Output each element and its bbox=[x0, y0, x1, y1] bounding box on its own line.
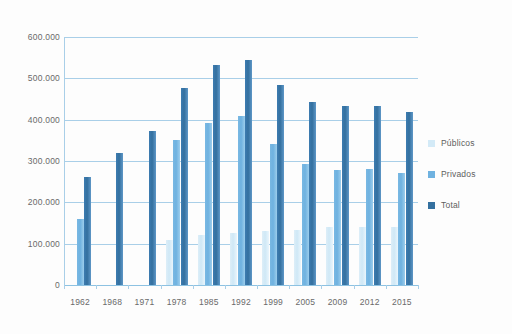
bar-total-1962 bbox=[84, 177, 91, 285]
bar-publicos-1985 bbox=[198, 235, 205, 285]
legend-label: Total bbox=[441, 200, 460, 210]
bar-total-1978 bbox=[181, 88, 188, 285]
bar-publicos-2009 bbox=[326, 227, 333, 285]
x-tick-mark-2009 bbox=[321, 285, 322, 289]
chart-legend: PúblicosPrivadosTotal bbox=[428, 138, 508, 231]
x-tick-mark-1978 bbox=[161, 285, 162, 289]
bar-total-2009 bbox=[342, 106, 349, 285]
y-tick-label-400000: 400.000 bbox=[28, 115, 60, 125]
bar-total-1968 bbox=[116, 153, 123, 285]
x-tick-mark-1985 bbox=[193, 285, 194, 289]
x-tick-label-2015: 2015 bbox=[392, 297, 412, 307]
legend-label: Privados bbox=[441, 169, 476, 179]
bar-total-1985 bbox=[213, 65, 220, 285]
y-tick-label-0: 0 bbox=[55, 280, 60, 290]
bar-total-1992 bbox=[245, 60, 252, 285]
bar-privados-1978 bbox=[173, 140, 180, 285]
bar-privados-2005 bbox=[302, 164, 309, 285]
y-tick-label-100000: 100.000 bbox=[28, 239, 60, 249]
gridline-0 bbox=[64, 285, 418, 286]
x-tick-label-1999: 1999 bbox=[263, 297, 283, 307]
legend-swatch-icon-privados bbox=[428, 171, 435, 178]
x-tick-mark-2015 bbox=[386, 285, 387, 289]
y-tick-label-200000: 200.000 bbox=[28, 197, 60, 207]
y-tick-label-600000: 600.000 bbox=[28, 32, 60, 42]
x-tick-mark-1971 bbox=[128, 285, 129, 289]
bar-publicos-2005 bbox=[294, 230, 301, 285]
y-tick-label-300000: 300.000 bbox=[28, 156, 60, 166]
x-tick-mark-2005 bbox=[289, 285, 290, 289]
x-tick-label-1962: 1962 bbox=[70, 297, 90, 307]
y-tick-label-500000: 500.000 bbox=[28, 73, 60, 83]
bar-privados-1992 bbox=[238, 116, 245, 285]
legend-item-públicos[interactable]: Públicos bbox=[428, 138, 508, 148]
x-tick-label-1968: 1968 bbox=[102, 297, 122, 307]
plot-area bbox=[64, 37, 418, 285]
y-axis-line bbox=[64, 37, 65, 285]
bar-privados-2009 bbox=[334, 170, 341, 285]
bar-publicos-1978 bbox=[166, 240, 173, 285]
bar-total-2015 bbox=[406, 112, 413, 285]
bar-total-1971 bbox=[149, 131, 156, 285]
legend-swatch-icon-total bbox=[428, 202, 435, 209]
x-tick-label-1985: 1985 bbox=[199, 297, 219, 307]
bar-total-1999 bbox=[277, 85, 284, 285]
x-tick-label-1992: 1992 bbox=[231, 297, 251, 307]
legend-item-privados[interactable]: Privados bbox=[428, 169, 508, 179]
bar-publicos-1999 bbox=[262, 231, 269, 285]
gridline-500000 bbox=[64, 78, 418, 79]
bar-total-2012 bbox=[374, 106, 381, 285]
x-tick-mark-end bbox=[418, 285, 419, 289]
bar-privados-2015 bbox=[398, 173, 405, 285]
x-tick-label-1978: 1978 bbox=[167, 297, 187, 307]
bar-publicos-2012 bbox=[359, 227, 366, 285]
bar-privados-2012 bbox=[366, 169, 373, 285]
x-tick-mark-2012 bbox=[354, 285, 355, 289]
bar-publicos-2015 bbox=[391, 227, 398, 285]
legend-item-total[interactable]: Total bbox=[428, 200, 508, 210]
bar-total-2005 bbox=[309, 102, 316, 285]
x-tick-mark-1999 bbox=[257, 285, 258, 289]
x-tick-label-2012: 2012 bbox=[360, 297, 380, 307]
legend-label: Públicos bbox=[441, 138, 475, 148]
x-tick-mark-1992 bbox=[225, 285, 226, 289]
x-tick-mark-1968 bbox=[96, 285, 97, 289]
bar-publicos-1992 bbox=[230, 233, 237, 285]
bar-privados-1999 bbox=[270, 144, 277, 285]
legend-swatch-icon-públicos bbox=[428, 140, 435, 147]
x-tick-label-1971: 1971 bbox=[135, 297, 155, 307]
x-tick-label-2005: 2005 bbox=[296, 297, 316, 307]
bar-privados-1985 bbox=[205, 123, 212, 285]
bar-privados-1962 bbox=[77, 219, 84, 285]
x-tick-mark-1962 bbox=[64, 285, 65, 289]
gridline-600000 bbox=[64, 37, 418, 38]
bar-chart: 0100.000200.000300.000400.000500.000600.… bbox=[0, 0, 512, 334]
x-tick-label-2009: 2009 bbox=[328, 297, 348, 307]
